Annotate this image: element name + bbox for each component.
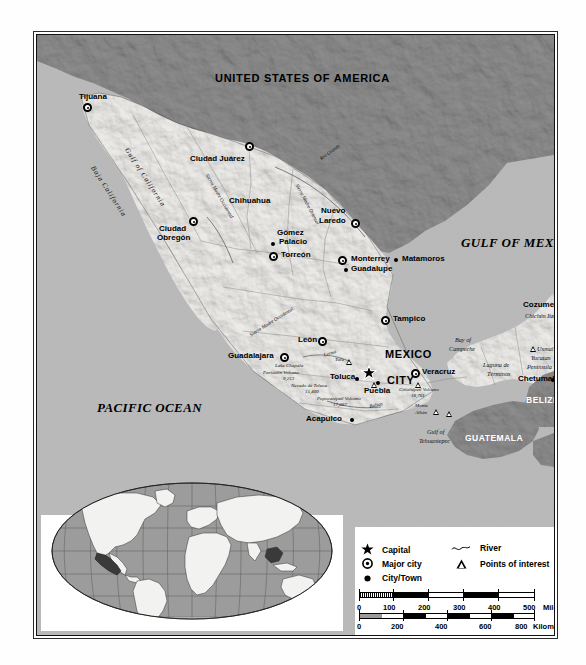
city-symbol-tampico[interactable] [381,316,390,325]
feature-label-gulf-of-tehuantepec-line1: Gulf of [427,429,444,435]
city-label-monterrey: Monterrey [351,255,390,263]
poi-marker-monte-alban-b[interactable] [446,411,452,417]
city-label-matamoros: Matamoros [402,255,445,263]
city-label-veracruz: Veracruz [422,368,455,376]
scale-km-tick-200: 200 [391,622,404,631]
feature-label-bay-of-campeche-line1: Bay of [455,337,471,343]
legend-item-major-city: Major city [359,558,422,569]
scale-miles-unit: Miles [543,603,555,612]
feature-label-yucatan-line1: Yucatan [531,355,551,361]
map-legend: Capital Major city City/Town [355,527,554,635]
major-city-dot-icon [359,558,375,569]
scale-miles-tick-400: 400 [488,603,501,612]
feature-label-nevado-elevation: 15,400 [305,389,319,394]
city-symbol-acapulco[interactable] [350,418,354,422]
country-label-belize: BELIZE [526,396,555,405]
poi-marker-citlaltepetl[interactable] [415,382,421,388]
capital-symbol-mexico-city[interactable] [361,365,377,381]
city-symbol-torreon[interactable] [269,252,278,261]
city-symbol-matamoros[interactable] [394,258,398,262]
city-label-guadalupe: Guadalupe [351,265,392,273]
legend-item-capital: Capital [359,543,410,556]
city-symbol-ciudad-obregon[interactable] [189,217,198,226]
capital-star-icon [359,543,375,556]
city-label-laredo: Laredo [319,217,346,225]
poi-marker-uxmal[interactable] [530,346,536,352]
scale-miles-tick-300: 300 [453,603,466,612]
world-inset-geometry [41,471,343,631]
city-label-ciudad-juarez: Ciudad Juárez [190,155,245,163]
legend-item-river: River [451,543,501,553]
city-label-palacio: Palacio [279,238,307,246]
legend-item-city-town: City/Town [359,573,422,583]
feature-label-laguna-de-terminos-line2: Términos [487,371,510,377]
capital-label-line2: CITY [387,375,414,386]
scale-km-unit: Kilometers [533,622,555,631]
city-label-acapulco: Acapulco [306,415,342,423]
country-label-united-states: UNITED STATES OF AMERICA [215,73,390,84]
legend-label-city-town: City/Town [382,573,422,583]
feature-label-yucatan-line2: Peninsula [527,364,552,370]
city-label-chetumal: Chetumal [518,375,554,383]
poi-marker-monte-alban-a[interactable] [433,409,439,415]
world-inset-map[interactable] [41,471,343,631]
feature-label-monte-alban-line2: Albán [415,410,427,415]
scale-miles-tick-100: 100 [383,603,396,612]
city-symbol-leon[interactable] [318,337,327,346]
feature-label-paricutin-volcano: Paricutín Volcano [263,370,299,375]
city-symbol-monterrey[interactable] [338,256,347,265]
feature-label-laguna-de-terminos-line1: Laguna de [483,362,509,368]
city-symbol-ciudad-juarez[interactable] [245,142,254,151]
feature-label-paricutin-elevation: 9,213 [283,376,294,381]
capital-label-line1: MEXICO [385,349,432,360]
points-of-interest-triangle-icon [451,559,471,569]
city-label-chihuahua: Chihuahua [229,197,270,205]
feature-label-lake-chapala: Lake Chapala [275,363,303,368]
feature-label-bay-of-campeche-line2: Campeche [449,346,475,352]
city-label-puebla: Puebla [364,387,390,395]
city-label-leon: León [298,336,317,344]
capital-star-icon [361,365,377,381]
legend-label-capital: Capital [382,545,410,555]
scale-km-tick-400: 400 [435,622,448,631]
city-town-dot-icon [359,574,375,583]
ocean-label-pacific-ocean: PACIFIC OCEAN [97,401,202,414]
island-label-cozumel: Cozumel [523,301,555,309]
scale-km-tick-800: 800 [515,622,528,631]
city-label-toluca: Toluca [330,373,355,381]
feature-label-gulf-of-tehuantepec-line2: Tehuantepec [419,438,450,444]
map-inner-frame: GULF OF MEXICO PACIFIC OCEAN UNITED STAT… [36,34,555,636]
city-symbol-gomez-palacio[interactable] [271,242,275,246]
legend-item-points-of-interest: Points of interest [451,559,549,569]
city-label-guadalajara: Guadalajara [228,352,274,360]
legend-label-river: River [480,543,501,553]
city-label-ciudad-obregon-line1: Ciudad [159,225,186,233]
river-squiggle-icon [451,544,471,553]
feature-label-popocatepetl-elevation: 17,887 [333,402,347,407]
legend-label-major-city: Major city [382,559,422,569]
city-label-torreon: Torreón [281,251,311,259]
scale-km-tick-600: 600 [479,622,492,631]
legend-label-points-of-interest: Points of interest [480,559,549,569]
city-symbol-guadalajara[interactable] [280,353,289,362]
feature-label-popocatepetl-volcano: Popocatépetl Volcano [317,396,361,401]
city-symbol-guadalupe[interactable] [344,268,348,272]
scale-miles-tick-200: 200 [418,603,431,612]
feature-label-chichen-itza: Chichén Itzá [525,313,555,319]
feature-label-citlaltepetl-elevation: 18,701 [411,393,425,398]
city-label-gomez: Gómez [277,229,304,237]
city-symbol-toluca[interactable] [355,377,359,381]
city-label-tampico: Tampico [393,315,425,323]
poi-marker-tula[interactable] [346,359,352,365]
feature-label-nevado-de-toluca: Nevado de Toluca [291,383,327,388]
ocean-label-gulf-of-mexico: GULF OF MEXICO [461,236,555,249]
city-label-ciudad-obregon-line2: Obregón [157,234,190,242]
map-page: GULF OF MEXICO PACIFIC OCEAN UNITED STAT… [0,0,586,665]
city-symbol-nuevo-laredo[interactable] [351,219,360,228]
country-label-guatemala: GUATEMALA [465,434,523,443]
feature-label-tula: Tula [335,357,344,362]
city-symbol-tijuana[interactable] [83,103,92,112]
scale-km-tick-0: 0 [357,622,361,631]
feature-label-uxmal: Uxmal [537,346,554,352]
feature-label-monte-alban-line1: Monte [415,403,428,408]
